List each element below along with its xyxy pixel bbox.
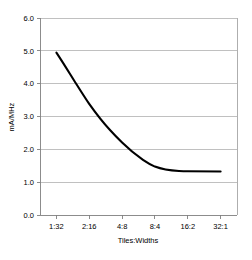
line-chart: 6.0 5.0 4.0 3.0 2.0 1.0 0.0 1:32 2:16 4:… (0, 0, 252, 260)
y-tick-label: 3.0 (24, 112, 34, 121)
y-tick-label: 1.0 (24, 178, 34, 187)
x-axis-title: Tiles:Widths (118, 236, 159, 245)
x-tick-label: 32:1 (213, 222, 228, 231)
y-tick-label: 2.0 (24, 145, 34, 154)
x-tick-label: 2:16 (82, 222, 97, 231)
chart-background (0, 0, 252, 260)
y-axis-title: mA/MHz (7, 102, 16, 131)
x-tick-label: 1:32 (49, 222, 64, 231)
x-tick-label: 16:2 (180, 222, 195, 231)
x-tick-label: 8:4 (150, 222, 160, 231)
y-tick-label: 5.0 (24, 47, 34, 56)
y-tick-label: 4.0 (24, 79, 34, 88)
y-tick-label: 6.0 (24, 14, 34, 23)
x-tick-label: 4:8 (117, 222, 127, 231)
y-tick-label: 0.0 (24, 211, 34, 220)
